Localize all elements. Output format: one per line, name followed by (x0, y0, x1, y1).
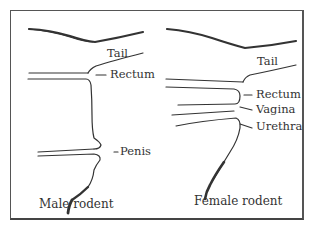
female-vagina-lower (172, 111, 234, 115)
female-tail-upper-outline (167, 29, 296, 48)
female-vagina-pointer (240, 107, 252, 110)
female-label-tail: Tail (257, 56, 278, 68)
male-rectum-lower (28, 79, 101, 149)
female-urethra-lower (176, 118, 240, 180)
male-label-tail: Tail (107, 48, 128, 60)
female-label-rectum: Rectum (256, 89, 301, 101)
female-urethra-pointer (240, 124, 252, 128)
female-label-urethra: Urethra (256, 121, 302, 133)
female-label-vagina: Vagina (256, 104, 295, 116)
male-label-rectum: Rectum (110, 69, 155, 81)
male-caption: Male rodent (39, 198, 114, 210)
male-label-penis: Penis (120, 146, 151, 158)
male-penis-upper (38, 149, 94, 152)
female-caption: Female rodent (194, 195, 282, 207)
female-rectum-upper (166, 79, 243, 82)
male-penis-lower (38, 154, 100, 187)
female-rectum-lower (166, 87, 240, 105)
